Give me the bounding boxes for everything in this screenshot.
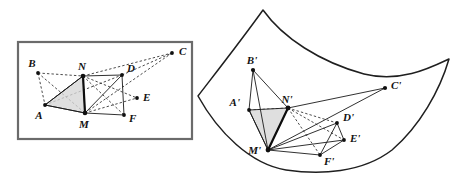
vertex-N-prime [286,106,291,111]
left-panel: A B C D E F M N [18,42,192,139]
geometry-figure: A B C D E F M N [0,0,466,178]
vertex-F [122,113,126,117]
left-panel-frame [18,42,192,139]
vertex-F-prime [318,153,322,157]
label-B-prime: B' [246,54,257,66]
label-D-prime: D' [342,111,354,123]
vertex-D [120,73,124,77]
label-C-prime: C' [391,79,401,91]
edge-Dp-Ep [337,123,344,140]
label-M-prime: M' [247,144,261,156]
vertex-B-prime [251,68,255,72]
label-E-prime: E' [349,132,360,144]
edge-Np-Cp [288,88,385,108]
label-A-prime: A' [229,96,240,108]
label-A: A [34,109,42,121]
vertex-N [81,74,86,79]
dashed-edge-Np-Dp [288,108,337,123]
vertex-B [36,71,40,75]
vertex-D-prime [335,121,339,125]
edge-Mp-Ep [268,140,344,150]
label-N: N [77,60,87,72]
label-B: B [27,57,35,69]
label-M: M [78,118,90,130]
label-D: D [126,62,135,74]
figure-canvas: A B C D E F M N [0,0,466,178]
vertex-M-prime [266,148,271,153]
label-F-prime: F' [323,155,334,167]
vertex-C [170,51,174,55]
label-E: E [142,91,150,103]
label-N-prime: N' [281,93,293,105]
label-C: C [179,45,187,57]
vertex-E [135,96,139,100]
label-F: F [128,112,137,124]
vertex-A-prime [247,108,251,112]
vertex-M [83,111,88,116]
vertex-A [43,103,47,107]
right-panel: A' B' C' D' E' F' M' N' [198,10,449,172]
edge-Mp-Fp [268,150,320,155]
vertex-C-prime [383,86,387,90]
vertex-E-prime [342,138,346,142]
edge-Bp-Ap [249,70,253,110]
